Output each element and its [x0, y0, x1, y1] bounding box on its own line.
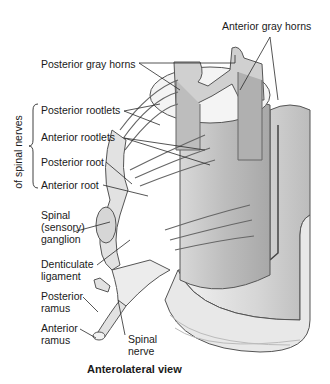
label-spinal-ganglion: Spinal (sensory) ganglion	[41, 209, 85, 245]
caption-view: Anterolateral view	[87, 363, 182, 375]
label-denticulate-ligament: Denticulate ligament	[41, 258, 94, 282]
label-anterior-ramus: Anterior ramus	[41, 322, 78, 346]
label-posterior-root: Posterior root	[41, 156, 104, 168]
label-spinal-nerve: Spinal nerve	[128, 333, 157, 357]
label-anterior-rootlets: Anterior rootlets	[41, 131, 115, 143]
label-of-spinal-nerves: of spinal nerves	[12, 102, 24, 202]
nerve-roots	[93, 130, 170, 340]
spinal-cord	[150, 47, 270, 289]
label-posterior-ramus: Posterior ramus	[41, 290, 83, 314]
label-posterior-gray-horns: Posterior gray horns	[41, 58, 136, 70]
bracket	[29, 104, 38, 188]
label-posterior-rootlets: Posterior rootlets	[41, 104, 120, 116]
label-anterior-root: Anterior root	[41, 179, 99, 191]
label-anterior-gray-horns: Anterior gray horns	[222, 20, 311, 32]
